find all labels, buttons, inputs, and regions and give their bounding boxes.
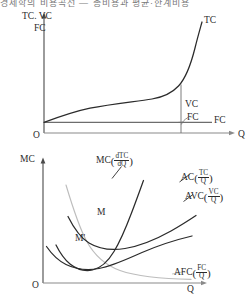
fc-bracket-label: FC	[187, 113, 199, 123]
afc-curve-label: AFC(FCQ)	[174, 265, 211, 281]
ac-label-fraction: TCQ	[198, 170, 209, 186]
ac-curve	[68, 216, 196, 250]
mc-y-axis-arrow	[41, 158, 46, 164]
afc-label-fraction: FCQ	[196, 265, 207, 281]
mc-y-axis-label: MC	[20, 155, 35, 165]
afc-curve-label-text: AFC	[174, 267, 192, 277]
fc-line-label: FC	[214, 116, 226, 126]
mc-origin-label: O	[32, 281, 39, 291]
point-m-prime-label: M'	[75, 234, 85, 244]
avc-curve-label-text: AVC	[185, 191, 204, 201]
tc-curve-label: TC	[204, 16, 216, 26]
vc-bracket-label: VC	[185, 100, 198, 110]
ac-curve-label: AC(TCQ)	[181, 170, 213, 186]
mc-x-axis-arrow	[201, 281, 207, 286]
mc-label-fraction: dTCdQ	[114, 153, 129, 169]
total-cost-curve	[44, 22, 202, 122]
mc-curve-label-text: MC	[96, 155, 111, 165]
mc-curve-label: MC(dTCdQ)	[96, 153, 133, 169]
afc-fraction-denominator: Q	[196, 273, 207, 281]
tc-x-axis-arrow	[229, 131, 235, 136]
tc-y-axis-label-line1: TC. VC	[22, 12, 52, 22]
ac-curve-label-text: AC	[181, 172, 194, 182]
ac-label-close-paren: )	[209, 172, 213, 184]
avc-curve-label: AVC(VCQ)	[185, 189, 223, 205]
afc-label-close-paren: )	[207, 267, 211, 279]
tc-origin-label: O	[33, 131, 40, 141]
mc-q-axis-label: Q	[187, 285, 194, 295]
avc-label-close-paren: )	[220, 191, 224, 203]
mc-fraction-denominator: dQ	[114, 161, 129, 169]
mc-label-close-paren: )	[129, 155, 133, 167]
avc-fraction-denominator: Q	[208, 197, 220, 205]
tc-q-axis-label: Q	[238, 130, 245, 140]
point-m-label: M	[97, 208, 105, 218]
avc-label-fraction: VCQ	[208, 189, 220, 205]
tc-y-axis-label-line2: FC	[34, 24, 46, 34]
ac-fraction-denominator: Q	[198, 178, 209, 186]
total-cost-chart	[42, 13, 235, 136]
